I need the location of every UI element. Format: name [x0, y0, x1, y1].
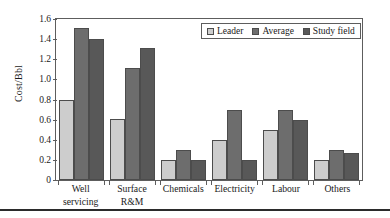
x-axis-label: Wellservicing — [55, 183, 106, 208]
x-axis-label: Chemicals — [158, 183, 209, 208]
y-axis-tick: 0.2 — [39, 155, 56, 165]
legend-label-leader: Leader — [217, 26, 243, 36]
legend-item-average: Average — [252, 26, 293, 36]
bar — [314, 160, 329, 180]
legend-swatch-average — [252, 28, 259, 35]
x-axis-label: SurfaceR&M — [106, 183, 157, 208]
bar — [212, 140, 227, 180]
bar-group — [161, 19, 206, 180]
bar — [176, 150, 191, 180]
x-axis-label: Labour — [260, 183, 311, 208]
bar — [263, 130, 278, 180]
legend-swatch-study-field — [303, 28, 310, 35]
y-axis-tick: 0.8 — [39, 95, 56, 105]
legend-item-study-field: Study field — [303, 26, 355, 36]
y-axis-tick: 0.4 — [39, 135, 56, 145]
bar — [278, 110, 293, 180]
bar — [293, 120, 308, 180]
bar — [227, 110, 242, 180]
y-axis-tick: 1.4 — [39, 34, 56, 44]
bar — [74, 28, 89, 180]
bar-group — [263, 19, 308, 180]
bar — [140, 48, 155, 180]
plot-area: 00.20.40.60.81.01.21.41.6 — [55, 18, 363, 181]
y-axis-tick: 1.2 — [39, 54, 56, 64]
bar — [329, 150, 344, 180]
x-axis-label: Electricity — [209, 183, 260, 208]
bar — [242, 160, 257, 180]
bar-group — [110, 19, 155, 180]
y-axis-title: Cost/Bbl — [13, 44, 24, 124]
x-axis-labels: WellservicingSurfaceR&MChemicalsElectric… — [55, 183, 363, 208]
legend-item-leader: Leader — [207, 26, 243, 36]
legend-swatch-leader — [207, 28, 214, 35]
legend-label-study-field: Study field — [313, 26, 355, 36]
bar-group — [314, 19, 359, 180]
legend-label-average: Average — [262, 26, 293, 36]
y-axis-tick: 1.6 — [39, 14, 56, 24]
bar-groups — [56, 19, 362, 180]
legend: Leader Average Study field — [201, 23, 361, 39]
x-axis-label: Others — [312, 183, 363, 208]
bar-group — [59, 19, 104, 180]
bar — [110, 119, 125, 180]
bar — [89, 39, 104, 180]
bar — [59, 100, 74, 181]
bar — [191, 160, 206, 180]
bar — [344, 153, 359, 180]
y-axis-tick: 1.0 — [39, 74, 56, 84]
y-axis-tick: 0.6 — [39, 115, 56, 125]
bar-group — [212, 19, 257, 180]
bar — [125, 68, 140, 180]
bottom-divider — [0, 209, 390, 211]
bar — [161, 160, 176, 180]
figure: Cost/Bbl 00.20.40.60.81.01.21.41.6 Wells… — [0, 0, 390, 218]
